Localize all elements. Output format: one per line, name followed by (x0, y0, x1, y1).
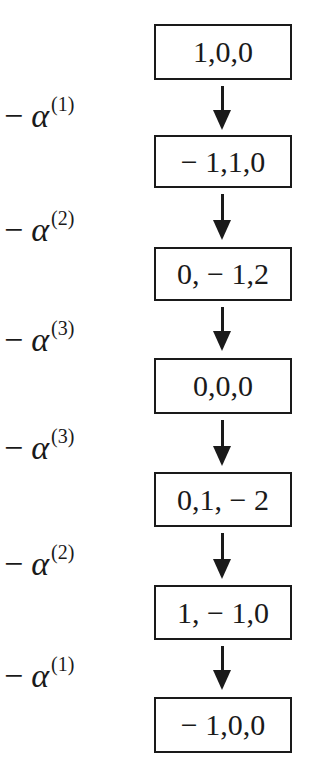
edge-label: −α(2) (4, 542, 74, 581)
down-arrow-icon (213, 533, 231, 581)
edge-label: −α(1) (4, 654, 74, 693)
edge-index: (2) (51, 541, 74, 563)
edge-label: −α(2) (4, 208, 74, 247)
node-label: 0, − 1,2 (177, 257, 269, 291)
edge-label: −α(3) (4, 318, 74, 357)
alpha-symbol: α (31, 211, 49, 248)
down-arrow-icon (213, 194, 231, 242)
node-box: − 1,0,0 (154, 697, 292, 753)
node-label: 0,0,0 (193, 369, 253, 403)
node-box: 0,0,0 (154, 358, 292, 414)
edge-label: −α(3) (4, 426, 74, 465)
edge-index: (3) (51, 425, 74, 447)
node-label: 1, − 1,0 (177, 596, 269, 630)
node-label: − 1,1,0 (181, 145, 265, 179)
node-box: 1, − 1,0 (154, 585, 292, 640)
alpha-symbol: α (31, 657, 49, 694)
node-box: 0,1, − 2 (154, 472, 292, 527)
edge-index: (3) (51, 317, 74, 339)
down-arrow-icon (213, 646, 231, 692)
down-arrow-icon (213, 86, 231, 130)
edge-index: (2) (51, 207, 74, 229)
node-label: 0,1, − 2 (177, 483, 269, 517)
alpha-symbol: α (31, 97, 49, 134)
edge-index: (1) (51, 93, 74, 115)
down-arrow-icon (213, 420, 231, 468)
alpha-symbol: α (31, 545, 49, 582)
edge-index: (1) (51, 653, 74, 675)
node-label: 1,0,0 (193, 35, 253, 69)
node-box: 1,0,0 (154, 24, 292, 80)
edge-label: −α(1) (4, 94, 74, 133)
node-box: − 1,1,0 (154, 135, 292, 188)
node-label: − 1,0,0 (181, 708, 265, 742)
node-box: 0, − 1,2 (154, 247, 292, 301)
alpha-symbol: α (31, 429, 49, 466)
down-arrow-icon (213, 307, 231, 353)
alpha-symbol: α (31, 321, 49, 358)
